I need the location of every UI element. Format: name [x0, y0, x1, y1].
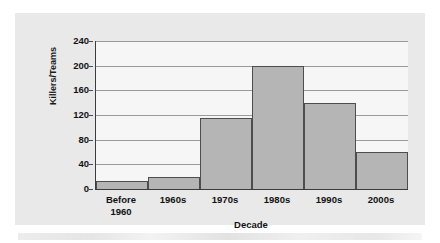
bar-chart-figure: Killers/Teams 04080120160200240 Before 1…: [0, 0, 440, 243]
y-axis-tick-label: 80: [57, 135, 89, 145]
bar: [148, 177, 200, 189]
plot-area: [95, 41, 408, 190]
y-axis-tick-mark: [89, 66, 93, 67]
x-axis-tick-label: 1960s: [147, 194, 199, 218]
chart-panel: Killers/Teams 04080120160200240 Before 1…: [15, 13, 425, 225]
x-axis-title: Decade: [95, 219, 407, 230]
y-axis-tick-label: 0: [57, 184, 89, 194]
y-axis-tick-label: 120: [57, 110, 89, 120]
page-scan-artifact: [18, 233, 422, 240]
x-axis-tick-label: 1980s: [251, 194, 303, 218]
y-axis-tick-mark: [89, 189, 93, 190]
x-axis-tick-labels: Before 19601960s1970s1980s1990s2000s: [95, 194, 407, 218]
bar: [356, 152, 408, 189]
y-axis-tick-label: 40: [57, 159, 89, 169]
bar: [304, 103, 356, 189]
y-axis-tick-mark: [89, 140, 93, 141]
y-axis-tick-label: 200: [57, 61, 89, 71]
x-axis-tick-label: 1990s: [303, 194, 355, 218]
y-axis-tick-mark: [89, 41, 93, 42]
y-axis-tick-label: 240: [57, 36, 89, 46]
x-axis-tick-label: Before 1960: [95, 194, 147, 218]
bar: [252, 66, 304, 189]
y-axis-tick-mark: [89, 115, 93, 116]
bar-series: [96, 41, 408, 189]
x-axis-tick-label: 1970s: [199, 194, 251, 218]
y-axis-tick-label: 160: [57, 85, 89, 95]
y-axis-tick-mark: [89, 90, 93, 91]
x-axis-tick-label: 2000s: [355, 194, 407, 218]
bar: [200, 118, 252, 189]
y-axis-tick-mark: [89, 164, 93, 165]
y-axis-tick-labels: 04080120160200240: [57, 41, 89, 189]
bar: [96, 181, 148, 189]
